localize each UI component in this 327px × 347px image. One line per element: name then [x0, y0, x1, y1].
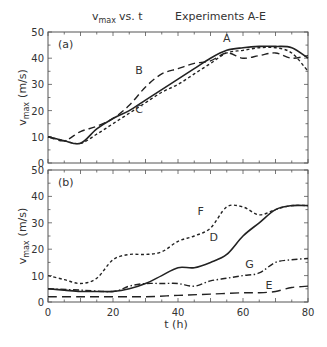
y-tick-label: 50 — [31, 27, 44, 38]
series-f-line — [48, 205, 308, 283]
x-tick-label: 0 — [45, 307, 51, 318]
curve-label: C — [135, 103, 143, 116]
x-tick-label: 80 — [302, 307, 315, 318]
y-tick-label: 10 — [31, 132, 44, 143]
x-tick-label: 60 — [237, 307, 250, 318]
y-tick-label: 10 — [31, 271, 44, 282]
y-tick-label: 30 — [31, 218, 44, 229]
panel-a: 01020304050(a)vmax(m/s)ABC — [16, 27, 308, 169]
y-axis-label: vmax(m/s) — [16, 69, 31, 126]
figure: vmaxvs. t Experiments A-E 01020304050(a)… — [0, 0, 327, 347]
y-tick-label: 50 — [31, 165, 44, 176]
y-axis-label: vmax(m/s) — [16, 208, 31, 265]
x-axis-label: t (h) — [164, 318, 187, 331]
curve-label: E — [266, 279, 273, 292]
curve-label: G — [245, 258, 254, 271]
y-tick-label: 40 — [31, 191, 44, 202]
title-right: Experiments A-E — [175, 10, 266, 23]
y-tick-label: 20 — [31, 244, 44, 255]
title-left: vmaxvs. t — [92, 10, 143, 25]
y-tick-label: 40 — [31, 53, 44, 64]
plot-frame — [48, 32, 308, 163]
panel-label: (a) — [58, 38, 73, 51]
x-tick-label: 20 — [107, 307, 120, 318]
curve-label: A — [223, 32, 231, 45]
chart-title: vmaxvs. t Experiments A-E — [92, 10, 266, 25]
x-tick-label: 40 — [172, 307, 185, 318]
y-tick-label: 30 — [31, 79, 44, 90]
curve-label: D — [210, 231, 218, 244]
curve-label: B — [135, 64, 143, 77]
series-c-line — [48, 47, 308, 143]
curve-label: F — [198, 205, 204, 218]
y-tick-label: 0 — [38, 297, 44, 308]
series-a-line — [48, 46, 308, 144]
panel-label: (b) — [58, 176, 74, 189]
series-b-line — [48, 53, 308, 141]
y-tick-label: 20 — [31, 106, 44, 117]
panel-b: 01020304050020406080(b)vmax(m/s)FDGE — [16, 165, 314, 318]
